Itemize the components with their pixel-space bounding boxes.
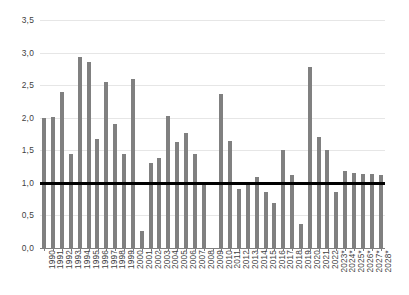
x-tick-label: 2028* [384,250,393,272]
bar-slot [155,20,164,248]
bar-slot [314,20,323,248]
bar [255,177,259,248]
x-tick-label: 2012 [242,250,251,269]
x-tick-label: 2007 [198,250,207,269]
x-tick-label: 2014 [260,250,269,269]
bar-slot [243,20,252,248]
reference-line [40,182,385,185]
bar [60,92,64,248]
bar [308,67,312,248]
bar-slot [208,20,217,248]
bar [175,142,179,248]
bar-chart: 3,53,02,52,01,51,00,50,0 199019911992199… [0,0,409,295]
bar-slot [173,20,182,248]
x-tick-label: 2009 [216,250,225,269]
bar-slot [84,20,93,248]
bar [149,163,153,248]
bar [95,139,99,248]
bar-slot [323,20,332,248]
bar-slot [137,20,146,248]
x-tick-label: 1994 [83,250,92,269]
bar [104,82,108,248]
bar-slot [67,20,76,248]
bar-slot [358,20,367,248]
bar [122,154,126,248]
bar [290,175,294,248]
bar [219,94,223,248]
bar [193,154,197,248]
y-tick-label: 3,5 [2,15,34,25]
x-tick-label: 2026* [366,250,375,272]
bar-slot [164,20,173,248]
x-tick-label: 2020 [313,250,322,269]
x-tick-label: 2021 [322,250,331,269]
bar [131,79,135,248]
bar-slot [341,20,350,248]
bar [299,224,303,248]
bar-slot [252,20,261,248]
bar-slot [75,20,84,248]
bar [361,174,365,248]
x-tick-label: 2005 [180,250,189,269]
bar-slot [40,20,49,248]
bar-slot [376,20,385,248]
bar-slot [279,20,288,248]
x-tick-label: 1993 [74,250,83,269]
x-tick-label: 2000 [136,250,145,269]
y-tick-label: 0,0 [2,243,34,253]
bar-slot [367,20,376,248]
bar [379,175,383,248]
x-tick-label: 2022 [331,250,340,269]
bar [264,192,268,248]
bar [237,189,241,248]
bar-slot [235,20,244,248]
bar-slot [350,20,359,248]
bar-slot [190,20,199,248]
bar [78,57,82,248]
bar-slot [288,20,297,248]
x-tick-label: 2006 [189,250,198,269]
bar-slot [111,20,120,248]
x-tick-label: 1995 [92,250,101,269]
bar-slot [49,20,58,248]
bar [228,141,232,248]
bar-slot [217,20,226,248]
bar [140,231,144,248]
bar [202,183,206,248]
bar-slot [128,20,137,248]
bar-slot [305,20,314,248]
x-tick-label: 2002 [154,250,163,269]
bar-slot [297,20,306,248]
bar [69,154,73,248]
y-tick-label: 2,5 [2,80,34,90]
bar-slot [93,20,102,248]
x-tick-label: 2027* [375,250,384,272]
y-tick-label: 0,5 [2,210,34,220]
x-tick-label: 2008 [207,250,216,269]
y-tick-label: 1,0 [2,178,34,188]
y-axis: 3,53,02,52,01,51,00,50,0 [0,20,36,248]
x-tick-label: 1996 [101,250,110,269]
bar [325,150,329,248]
bar-slot [332,20,341,248]
bar [113,124,117,248]
x-axis: 1990199119921993199419951996199719981999… [40,250,385,295]
bar [184,133,188,248]
bar [246,183,250,248]
bar [370,174,374,248]
bar-slot [270,20,279,248]
bar [281,150,285,248]
bar [317,137,321,248]
bar-slot [199,20,208,248]
bar [87,62,91,248]
bar-slot [146,20,155,248]
x-tick-label: 2015 [269,250,278,269]
plot-area [40,20,385,248]
bar [334,192,338,248]
bar-slot [182,20,191,248]
x-tick-label: 1999 [127,250,136,269]
bar-slot [102,20,111,248]
bar-slot [58,20,67,248]
y-tick-label: 2,0 [2,113,34,123]
y-tick-label: 1,5 [2,145,34,155]
